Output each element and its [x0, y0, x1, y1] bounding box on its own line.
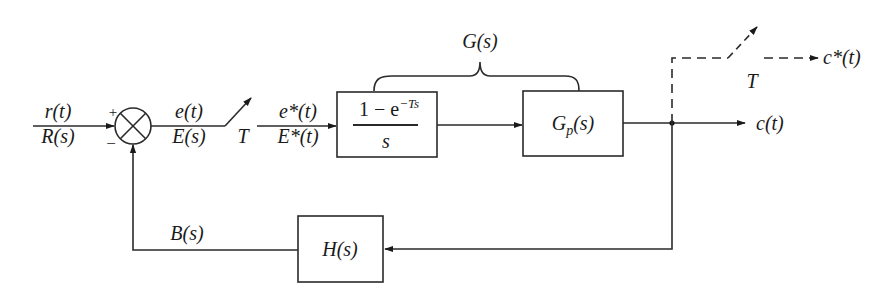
output-sampler-period-label: T — [746, 70, 759, 92]
block-diagram: r(t) R(s) + − e(t) E(s) T e*(t) E*(t) 1 … — [0, 0, 890, 301]
zoh-exponent: −Ts — [399, 96, 419, 111]
output-time-label: c(t) — [756, 112, 784, 135]
output-sampler-branch — [672, 58, 728, 123]
input-sampler-switch — [225, 98, 251, 126]
sampled-error-time-label: e*(t) — [279, 100, 317, 123]
input-time-label: r(t) — [45, 100, 72, 123]
zoh-denominator: s — [382, 130, 390, 152]
plus-sign: + — [109, 104, 117, 120]
error-time-label: e(t) — [175, 100, 203, 123]
group-brace — [374, 62, 579, 91]
sampled-output-label: c*(t) — [823, 46, 861, 69]
feedback-block-label: H(s) — [321, 238, 358, 261]
output-sampler-switch — [728, 27, 757, 58]
error-laplace-label: E(s) — [171, 125, 206, 148]
feedback-signal-line — [133, 145, 298, 250]
summing-junction — [115, 108, 151, 144]
group-brace-label: G(s) — [462, 30, 498, 53]
minus-sign: − — [106, 134, 116, 153]
feedback-signal-label: B(s) — [170, 222, 204, 245]
input-laplace-label: R(s) — [40, 125, 75, 148]
input-sampler-period-label: T — [237, 125, 250, 147]
sampled-error-laplace-label: E*(t) — [276, 125, 318, 148]
